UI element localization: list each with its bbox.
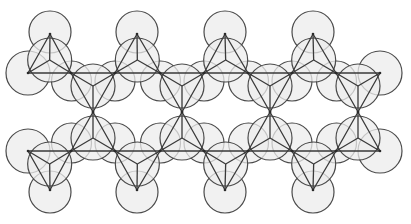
vertex-dot <box>224 189 227 192</box>
vertex-dot <box>291 72 294 75</box>
vertex-dot <box>49 33 52 36</box>
vertex-dot <box>181 111 184 114</box>
vertex-dot <box>136 189 139 192</box>
vertex-dot <box>159 72 162 75</box>
vertex-dot <box>291 150 294 153</box>
vertex-dot <box>159 150 162 153</box>
centroid-spoke <box>313 164 314 190</box>
vertex-dot <box>114 150 117 153</box>
vertex-dot <box>357 111 360 114</box>
circle-layer <box>6 11 402 213</box>
vertex-dot <box>247 150 250 153</box>
vertex-dot <box>136 33 139 36</box>
centroid-spoke <box>313 34 314 60</box>
vertex-dot <box>335 72 338 75</box>
vertex-dot <box>379 150 382 153</box>
vertex-dot <box>335 150 338 153</box>
vertex-dot <box>203 150 206 153</box>
vertex-dot <box>312 189 315 192</box>
vertex-dot <box>70 150 73 153</box>
vertex-dot <box>92 111 95 114</box>
triangle-circle-lattice-diagram <box>0 0 411 224</box>
vertex-dot <box>49 189 52 192</box>
vertex-dot <box>247 72 250 75</box>
vertex-dot <box>224 33 227 36</box>
vertex-dot <box>203 72 206 75</box>
vertex-dot <box>379 72 382 75</box>
vertex-dot <box>312 33 315 36</box>
vertex-dot <box>114 72 117 75</box>
vertex-dot <box>27 150 30 153</box>
vertex-dot <box>27 72 30 75</box>
centroid-spoke <box>225 34 226 60</box>
vertex-dot <box>70 72 73 75</box>
vertex-dot <box>269 111 272 114</box>
centroid-spoke <box>225 164 226 190</box>
